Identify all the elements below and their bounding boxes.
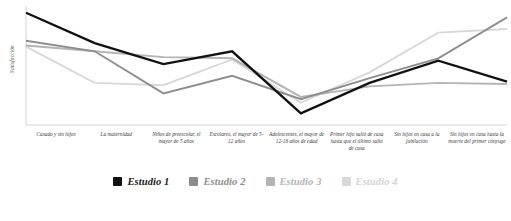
x-axis-label: Sin hijos en casa a la jubilación bbox=[387, 131, 447, 145]
series-line bbox=[26, 17, 507, 99]
satisfaction-line-chart: Satisfacción Casado y sin hijosLa matern… bbox=[0, 0, 511, 221]
legend-swatch-icon bbox=[342, 177, 351, 186]
legend-item[interactable]: Estudio 2 bbox=[189, 176, 245, 187]
chart-legend: Estudio 1Estudio 2Estudio 3Estudio 4 bbox=[0, 176, 511, 187]
legend-label: Estudio 4 bbox=[356, 176, 398, 187]
series-line bbox=[26, 29, 507, 103]
x-axis-label: Primer hijo salió de casa hasta que el ú… bbox=[327, 131, 387, 152]
plot-area bbox=[0, 0, 511, 130]
x-axis-label: La maternidad bbox=[86, 131, 146, 138]
legend-item[interactable]: Estudio 3 bbox=[266, 176, 322, 187]
legend-swatch-icon bbox=[266, 177, 275, 186]
legend-item[interactable]: Estudio 1 bbox=[113, 176, 169, 187]
legend-swatch-icon bbox=[189, 177, 198, 186]
y-axis-title: Satisfacción bbox=[9, 29, 15, 89]
x-axis-label: Sin hijos en casa hasta la muerte del pr… bbox=[447, 131, 507, 145]
x-axis-category-labels: Casado y sin hijosLa maternidadNiños de … bbox=[26, 131, 507, 171]
x-axis-label: Escolares, el mayor de 5-12 años bbox=[206, 131, 266, 145]
series-line bbox=[26, 13, 507, 114]
legend-label: Estudio 1 bbox=[127, 176, 169, 187]
x-axis-label: Niños de preescolar, el mayor de 5 años bbox=[146, 131, 206, 145]
x-axis-label: Casado y sin hijos bbox=[26, 131, 86, 138]
plot-svg bbox=[0, 0, 511, 130]
legend-label: Estudio 2 bbox=[203, 176, 245, 187]
legend-item[interactable]: Estudio 4 bbox=[342, 176, 398, 187]
legend-label: Estudio 3 bbox=[280, 176, 322, 187]
x-axis-label: Adolescentes, el mayor de 12-16 años de … bbox=[267, 131, 327, 145]
legend-swatch-icon bbox=[113, 177, 122, 186]
